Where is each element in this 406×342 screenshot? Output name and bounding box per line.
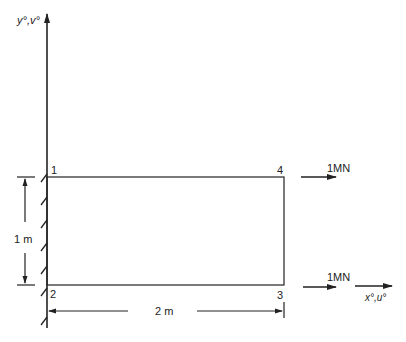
x-axis-label: x°,u°: [364, 292, 386, 303]
load-label-node-4: 1MN: [327, 162, 350, 174]
fixed-support-hatching: [41, 174, 47, 325]
node-1-label: 1: [51, 164, 57, 176]
width-dimension-label: 2 m: [155, 305, 173, 317]
finite-element: [47, 177, 284, 285]
height-dimension: [17, 177, 35, 285]
node-4-label: 4: [277, 164, 283, 176]
node-2-label: 2: [50, 288, 56, 300]
height-dimension-label: 1 m: [14, 233, 32, 245]
load-label-node-3: 1MN: [327, 271, 350, 283]
element-diagram: 1 2 3 4 1MN 1MN x°,u° y°,v° 1 m 2 m: [0, 0, 406, 342]
node-3-label: 3: [277, 289, 283, 301]
y-axis-label: y°,v°: [16, 14, 40, 26]
